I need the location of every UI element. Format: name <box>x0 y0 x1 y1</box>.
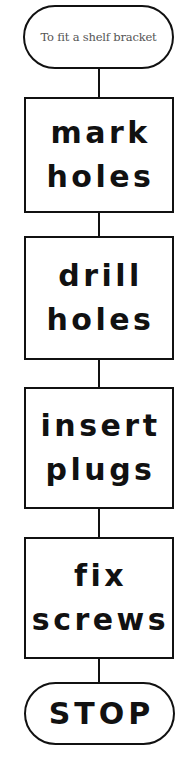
start-terminator: To fit a shelf bracket <box>23 5 174 69</box>
process-step-mark-holes: mark holes <box>24 97 174 213</box>
connector-line <box>98 212 100 237</box>
step-text-line: screws <box>29 598 169 642</box>
connector-line <box>98 359 100 388</box>
connector-line <box>98 658 100 683</box>
step-text-line: fix <box>71 554 127 598</box>
connector-line <box>98 508 100 538</box>
step-text-line: mark <box>47 111 150 155</box>
connector-line <box>98 68 100 98</box>
start-label: To fit a shelf bracket <box>41 30 157 44</box>
stop-terminator: STOP <box>24 682 175 745</box>
process-step-insert-plugs: insert plugs <box>24 387 174 509</box>
stop-label: STOP <box>45 696 155 731</box>
step-text-line: insert <box>38 404 161 448</box>
process-step-drill-holes: drill holes <box>24 236 174 360</box>
step-text-line: drill <box>55 254 143 298</box>
process-step-fix-screws: fix screws <box>24 537 174 659</box>
step-text-line: plugs <box>43 448 156 492</box>
step-text-line: holes <box>44 298 155 342</box>
step-text-line: holes <box>44 155 155 199</box>
